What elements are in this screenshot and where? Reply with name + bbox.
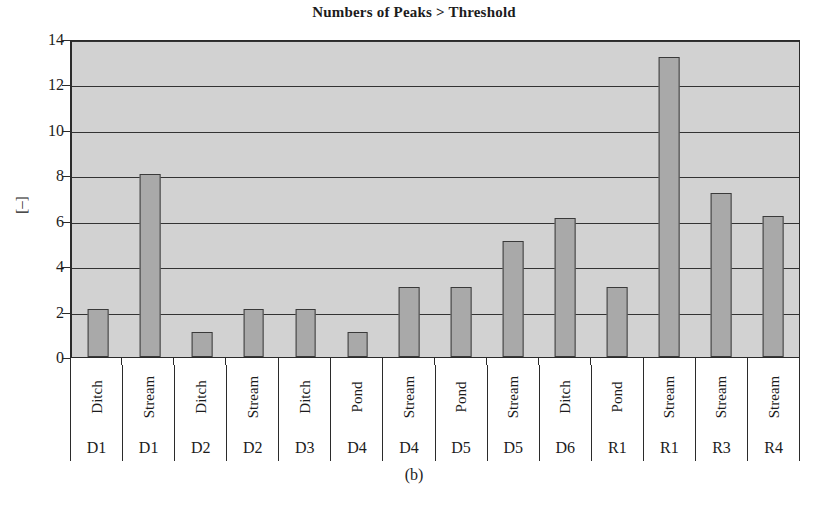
x-axis-site-label: D4 — [331, 439, 382, 457]
bar-r3-stream[interactable] — [711, 193, 732, 357]
bar-d1-stream[interactable] — [139, 174, 160, 357]
bar-cell — [643, 41, 695, 357]
x-tick-mark — [279, 358, 331, 365]
bar-series — [72, 41, 799, 357]
bar-d2-ditch[interactable] — [191, 332, 212, 357]
x-axis-site-label: R1 — [644, 439, 695, 457]
x-tick-mark — [591, 358, 643, 365]
x-axis-site-label: D5 — [436, 439, 487, 457]
plot-area — [70, 40, 800, 358]
bar-cell — [539, 41, 591, 357]
x-axis-site-label: D1 — [123, 439, 174, 457]
x-tick-mark — [226, 358, 278, 365]
x-tick-mark — [696, 358, 748, 365]
x-axis-cell-d5-pond: PondD5 — [436, 365, 488, 461]
x-axis-cell-d3-ditch: DitchD3 — [279, 365, 331, 461]
bar-cell — [487, 41, 539, 357]
x-tick-mark — [331, 358, 383, 365]
x-axis-type-label: Stream — [661, 376, 678, 419]
x-axis-type-label: Stream — [244, 376, 261, 419]
x-axis-type-label: Pond — [609, 382, 626, 413]
x-axis-site-label: D3 — [279, 439, 330, 457]
x-axis-tick-marks — [70, 358, 800, 365]
bar-d4-pond[interactable] — [347, 332, 368, 357]
x-axis-cell-r1-pond: PondR1 — [592, 365, 644, 461]
y-axis-ticks: 02468101214 — [30, 30, 72, 370]
x-tick-mark — [70, 358, 122, 365]
x-axis-type-label: Stream — [765, 376, 782, 419]
x-axis-type-label: Stream — [401, 376, 418, 419]
x-axis-type-label: Ditch — [296, 380, 313, 413]
x-axis-type-label: Stream — [713, 376, 730, 419]
bar-r4-stream[interactable] — [763, 216, 784, 357]
bar-d6-ditch[interactable] — [555, 218, 576, 357]
x-tick-mark — [644, 358, 696, 365]
bar-r1-pond[interactable] — [607, 287, 628, 357]
x-axis-cell-d1-stream: StreamD1 — [123, 365, 175, 461]
x-axis-cell-r3-stream: StreamR3 — [696, 365, 748, 461]
figure-panel: Numbers of Peaks > Threshold [–] 0246810… — [0, 0, 828, 509]
x-tick-mark — [383, 358, 435, 365]
y-tick-mark-6 — [62, 222, 70, 223]
x-axis-type-label: Ditch — [88, 380, 105, 413]
x-axis-site-label: D6 — [540, 439, 591, 457]
x-axis-cell-d2-ditch: DitchD2 — [175, 365, 227, 461]
x-axis-type-label: Ditch — [557, 380, 574, 413]
x-axis-type-label: Stream — [140, 376, 157, 419]
x-axis-site-label: D1 — [71, 439, 122, 457]
x-tick-mark — [539, 358, 591, 365]
x-axis-cell-d4-stream: StreamD4 — [383, 365, 435, 461]
x-axis-site-label: D5 — [488, 439, 539, 457]
x-axis-type-label: Pond — [348, 382, 365, 413]
x-axis-cell-d2-stream: StreamD2 — [227, 365, 279, 461]
y-tick-mark-4 — [62, 267, 70, 268]
bar-cell — [435, 41, 487, 357]
x-axis-site-label: D2 — [175, 439, 226, 457]
sub-caption: (b) — [0, 466, 828, 484]
bar-d4-stream[interactable] — [399, 287, 420, 357]
bar-d2-stream[interactable] — [243, 309, 264, 357]
x-tick-mark — [487, 358, 539, 365]
x-axis-cell-r4-stream: StreamR4 — [748, 365, 799, 461]
bar-cell — [591, 41, 643, 357]
x-axis-site-label: R1 — [592, 439, 643, 457]
y-tick-mark-0 — [62, 358, 70, 359]
bar-cell — [228, 41, 280, 357]
x-axis-type-label: Pond — [453, 382, 470, 413]
x-tick-mark — [748, 358, 800, 365]
x-tick-mark — [122, 358, 174, 365]
bar-cell — [384, 41, 436, 357]
x-axis-cell-d1-ditch: DitchD1 — [71, 365, 123, 461]
bar-d5-pond[interactable] — [451, 287, 472, 357]
x-axis-site-label: R3 — [696, 439, 747, 457]
chart-title: Numbers of Peaks > Threshold — [0, 4, 828, 21]
x-axis-label-table: DitchD1StreamD1DitchD2StreamD2DitchD3Pon… — [70, 365, 800, 461]
y-tick-mark-14 — [62, 40, 70, 41]
x-axis-type-label: Stream — [505, 376, 522, 419]
x-axis-cell-r1-stream: StreamR1 — [644, 365, 696, 461]
x-tick-mark — [174, 358, 226, 365]
bar-cell — [124, 41, 176, 357]
bar-cell — [747, 41, 799, 357]
y-tick-mark-12 — [62, 85, 70, 86]
x-axis-cell-d4-pond: PondD4 — [331, 365, 383, 461]
x-axis-site-label: D4 — [383, 439, 434, 457]
bar-d5-stream[interactable] — [503, 241, 524, 357]
x-axis-site-label: R4 — [748, 439, 799, 457]
bar-cell — [695, 41, 747, 357]
y-tick-mark-8 — [62, 176, 70, 177]
bar-cell — [332, 41, 384, 357]
x-axis-site-label: D2 — [227, 439, 278, 457]
bar-cell — [72, 41, 124, 357]
y-tick-mark-2 — [62, 313, 70, 314]
x-axis-type-label: Ditch — [192, 380, 209, 413]
x-tick-mark — [435, 358, 487, 365]
bar-d3-ditch[interactable] — [295, 309, 316, 357]
y-tick-mark-10 — [62, 131, 70, 132]
x-axis-cell-d5-stream: StreamD5 — [488, 365, 540, 461]
bar-cell — [176, 41, 228, 357]
bar-cell — [280, 41, 332, 357]
bar-r1-stream[interactable] — [659, 57, 680, 357]
bar-d1-ditch[interactable] — [88, 309, 109, 357]
x-axis-cell-d6-ditch: DitchD6 — [540, 365, 592, 461]
